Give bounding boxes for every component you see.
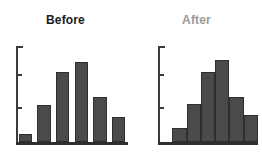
plot-area-after [158,44,258,142]
panel-title-before: Before [0,13,131,27]
plot-area-before [16,44,128,142]
bar-after-bin-4 [201,72,215,142]
bar-slot-before-bin-2 [35,46,54,142]
bar-after-bin-2 [172,128,186,142]
bar-before-bin-5 [93,97,106,142]
bar-slot-after-bin-3 [187,46,201,142]
bar-slot-before-bin-3 [53,46,72,142]
bar-before-bin-6 [112,117,125,142]
bar-slot-before-bin-6 [109,46,128,142]
bar-slot-after-bin-7 [244,46,258,142]
bar-before-bin-2 [37,105,50,142]
bar-slot-after-bin-4 [201,46,215,142]
bar-after-bin-7 [244,115,258,142]
bar-group-before [16,46,128,142]
panel-after: After [131,0,262,164]
bar-slot-before-bin-1 [16,46,35,142]
bar-slot-after-bin-1 [158,46,172,142]
bar-group-after [158,46,258,142]
bar-after-bin-6 [229,97,243,142]
bar-before-bin-3 [56,72,69,142]
before-after-histogram-figure: Before After [0,0,262,164]
x-axis-before [16,142,128,145]
bar-before-bin-1 [19,134,32,142]
x-axis-after [158,142,258,145]
bar-slot-after-bin-5 [215,46,229,142]
bar-after-bin-3 [187,104,201,142]
bar-after-bin-5 [215,60,229,142]
bar-slot-before-bin-4 [72,46,91,142]
panel-before: Before [0,0,131,164]
panel-title-after: After [131,13,262,27]
bar-before-bin-4 [75,62,88,142]
bar-slot-after-bin-6 [229,46,243,142]
bar-slot-after-bin-2 [172,46,186,142]
bar-slot-before-bin-5 [91,46,110,142]
